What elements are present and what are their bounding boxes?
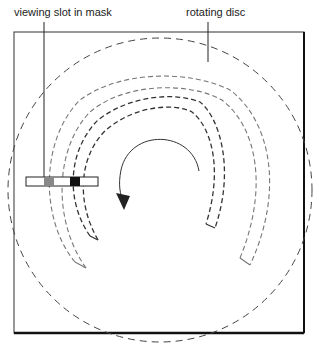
outer-track (49, 76, 269, 268)
viewing-slot (26, 177, 98, 186)
rotating-disc (8, 38, 312, 342)
rotation-arrow (120, 139, 199, 202)
inner-track (73, 97, 224, 240)
diagram (0, 0, 319, 348)
arrow-head-icon (116, 193, 130, 210)
